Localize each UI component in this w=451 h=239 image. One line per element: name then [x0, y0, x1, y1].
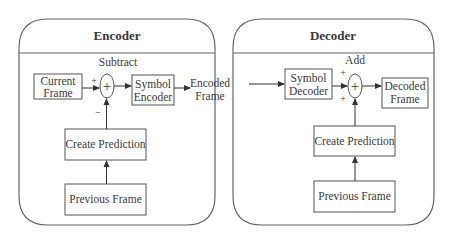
- encoder-panel: Encoder Subtract Current Frame + + − Sym…: [19, 19, 215, 225]
- subtract-sign-minus: −: [95, 107, 101, 118]
- encoder-title: Encoder: [94, 28, 141, 43]
- decoder-add-label: Add: [345, 54, 365, 66]
- codec-diagram: Encoder Subtract Current Frame + + − Sym…: [0, 0, 451, 239]
- subtract-junction-symbol: +: [103, 78, 111, 94]
- symbol-decoder-label-line1: Symbol: [291, 72, 327, 85]
- encoded-frame-label-line2: Frame: [195, 90, 224, 102]
- encoded-frame-label-line1: Encoded: [190, 77, 230, 89]
- encoder-subtract-label: Subtract: [99, 56, 138, 68]
- decoder-panel: Decoder Add Symbol Decoder + + + Decoded…: [233, 19, 434, 225]
- add-sign-bottom: +: [340, 93, 346, 104]
- symbol-encoder-label-line1: Symbol: [135, 78, 171, 91]
- decoder-previous-frame-label: Previous Frame: [318, 190, 391, 202]
- subtract-sign-plus: +: [91, 75, 97, 86]
- add-sign-top: +: [340, 67, 346, 78]
- decoded-frame-label-line2: Frame: [390, 93, 419, 105]
- encoder-previous-frame-label: Previous Frame: [69, 193, 142, 205]
- decoder-create-prediction-label: Create Prediction: [314, 135, 394, 147]
- symbol-decoder-label-line2: Decoder: [289, 85, 328, 97]
- encoder-create-prediction-label: Create Prediction: [65, 138, 145, 150]
- decoded-frame-label-line1: Decoded: [385, 80, 426, 92]
- symbol-encoder-label-line2: Encoder: [134, 91, 172, 103]
- current-frame-label-line1: Current: [40, 75, 76, 87]
- decoder-title: Decoder: [310, 28, 356, 43]
- current-frame-label-line2: Frame: [43, 87, 72, 99]
- add-junction-symbol: +: [351, 78, 359, 94]
